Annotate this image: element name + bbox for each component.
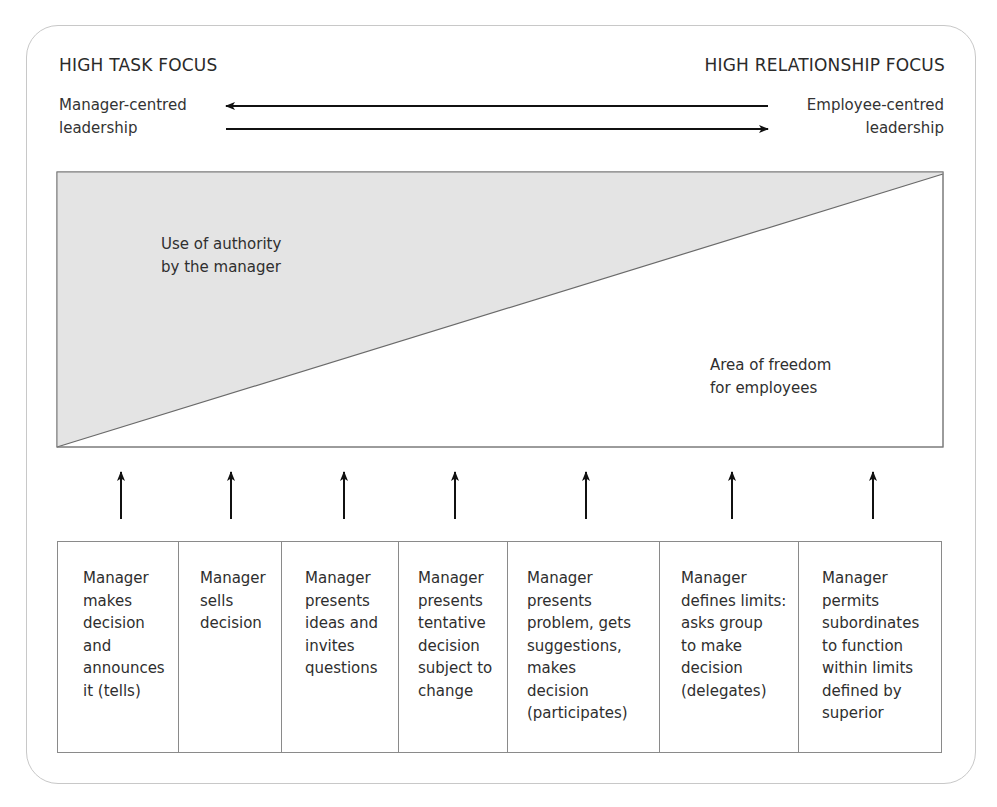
leadership-behaviours-table: Manager makes decision and announces it … [57,541,942,753]
behaviour-participates: Manager presents problem, gets suggestio… [508,542,660,752]
cell-line: Manager [83,567,178,590]
cell-line: it (tells) [83,680,178,703]
cell-line: (delegates) [681,680,798,703]
cell-line: ideas and [305,612,398,635]
label-line: by the manager [161,256,281,279]
behaviour-delegates: Manager defines limits: asks group to ma… [660,542,799,752]
behaviour-presents-ideas: Manager presents ideas and invites quest… [282,542,399,752]
cell-line: Manager [305,567,398,590]
cell-line: decision [527,680,659,703]
label-line: leadership [807,117,944,140]
cell-line: and [83,635,178,658]
cell-line: presents [527,590,659,613]
cell-line: superior [822,702,941,725]
label-line: Employee-centred [807,94,944,117]
label-line: Area of freedom [710,354,831,377]
cell-line: questions [305,657,398,680]
cell-line: presents [305,590,398,613]
cell-line: defined by [822,680,941,703]
cell-line: sells [200,590,281,613]
heading-high-relationship-focus: HIGH RELATIONSHIP FOCUS [705,55,945,75]
cell-line: invites [305,635,398,658]
cell-line: to function [822,635,941,658]
cell-line: decision [200,612,281,635]
cell-line: decision [681,657,798,680]
cell-line: tentative [418,612,507,635]
cell-line: Manager [200,567,281,590]
cell-line: Manager [418,567,507,590]
cell-line: decision [83,612,178,635]
cell-line: to make [681,635,798,658]
label-employee-centred-leadership: Employee-centred leadership [807,94,944,140]
heading-high-task-focus: HIGH TASK FOCUS [59,55,217,75]
cell-line: Manager [681,567,798,590]
cell-line: announces [83,657,178,680]
cell-line: problem, gets [527,612,659,635]
cell-line: asks group [681,612,798,635]
cell-line: change [418,680,507,703]
label-manager-centred-leadership: Manager-centred leadership [59,94,187,140]
cell-line: subordinates [822,612,941,635]
label-line: Use of authority [161,233,281,256]
cell-line: suggestions, [527,635,659,658]
behaviour-tells: Manager makes decision and announces it … [58,542,179,752]
behaviour-permits-subordinates: Manager permits subordinates to function… [799,542,941,752]
cell-line: Manager [527,567,659,590]
label-area-of-freedom: Area of freedom for employees [710,354,831,400]
cell-line: makes [527,657,659,680]
behaviour-sells: Manager sells decision [179,542,282,752]
cell-line: makes [83,590,178,613]
cell-line: within limits [822,657,941,680]
cell-line: permits [822,590,941,613]
cell-line: subject to [418,657,507,680]
label-line: leadership [59,117,187,140]
cell-line: defines limits: [681,590,798,613]
label-line: Manager-centred [59,94,187,117]
behaviour-tentative-decision: Manager presents tentative decision subj… [399,542,508,752]
label-line: for employees [710,377,831,400]
cell-line: presents [418,590,507,613]
cell-line: (participates) [527,702,659,725]
cell-line: Manager [822,567,941,590]
label-use-of-authority: Use of authority by the manager [161,233,281,279]
cell-line: decision [418,635,507,658]
